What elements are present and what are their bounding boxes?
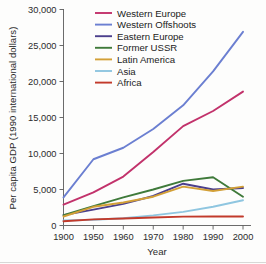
series-line-africa [64,217,244,222]
legend-label-eastern-europe: Eastern Europe [117,31,184,42]
x-tick-label: 1950 [83,232,104,242]
y-tick-label: 15,000 [28,113,56,123]
series-line-latin-america [64,187,244,217]
gdp-line-chart: Per capita GDP (1990 international dolla… [0,0,266,264]
x-axis-title-text: Year [147,246,167,257]
legend-label-western-europe: Western Europe [117,8,186,19]
x-tick-label: 1980 [173,232,194,242]
x-tick-label: 1960 [113,232,134,242]
y-tick-label: 0 [51,221,56,231]
y-axis-title: Per capita GDP (1990 international dolla… [7,27,18,210]
x-tick-label: 1900 [53,232,74,242]
chart-legend: Western EuropeWestern OffshootsEastern E… [95,8,196,89]
y-tick-label: 10,000 [28,149,56,159]
legend-label-former-ussr: Former USSR [117,42,177,53]
y-axis-title-text: Per capita GDP (1990 international dolla… [7,27,18,210]
x-tick-label: 1990 [203,232,224,242]
x-tick-label: 2000 [233,232,254,242]
x-axis-ticks: 1900195019601970198019902000 [53,226,253,243]
y-tick-label: 5,000 [33,185,56,195]
y-tick-label: 20,000 [28,77,56,87]
x-tick-label: 1970 [143,232,164,242]
chart-figure: Per capita GDP (1990 international dolla… [0,0,266,264]
legend-label-africa: Africa [117,77,142,88]
y-axis-ticks: 05,00010,00015,00020,00025,00030,000 [28,5,63,231]
legend-label-latin-america: Latin America [117,54,176,65]
series-line-eastern-europe [64,184,244,215]
y-tick-label: 30,000 [28,5,56,15]
legend-label-asia: Asia [117,66,136,77]
y-tick-label: 25,000 [28,41,56,51]
legend-label-western-offshoots: Western Offshoots [117,19,196,30]
series-line-western-europe [64,92,244,205]
